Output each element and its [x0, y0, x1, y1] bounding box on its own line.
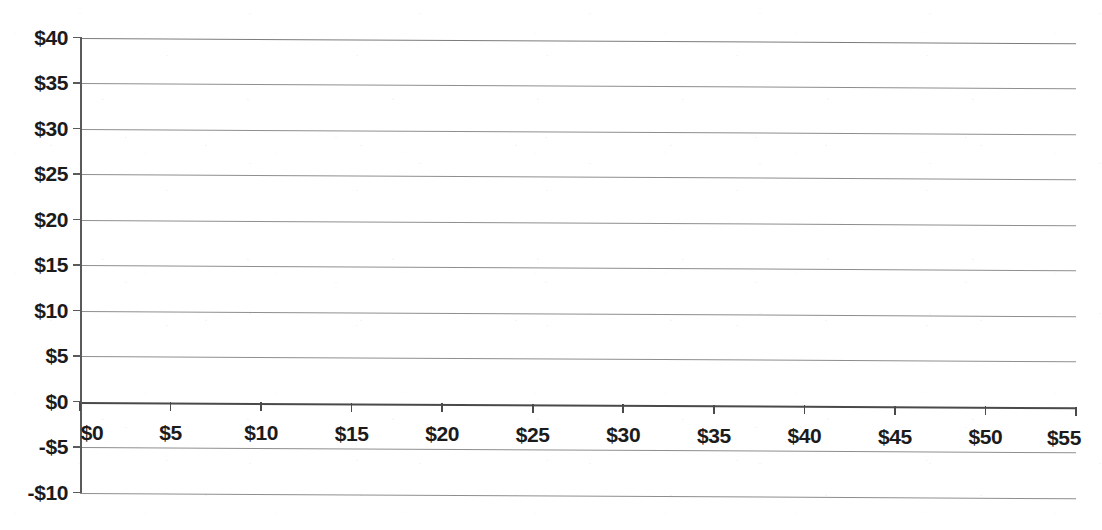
x-axis-tick [985, 406, 987, 415]
x-axis-tick [170, 402, 172, 411]
x-axis-tick-label: $25 [516, 424, 550, 445]
gridline [80, 356, 1076, 362]
y-axis-tick-label: $25 [4, 163, 68, 184]
gridline [80, 129, 1076, 135]
y-axis-tick [73, 37, 81, 39]
x-axis-tick-label: $15 [335, 423, 369, 444]
x-axis-tick [713, 405, 715, 414]
x-axis-tick-label: $55 [1047, 427, 1081, 448]
x-axis-tick [1075, 407, 1077, 416]
x-axis-tick [622, 404, 624, 413]
x-axis-tick-label: $35 [697, 425, 731, 446]
y-axis-tick [73, 219, 81, 221]
x-axis-tick-label: $45 [878, 426, 912, 447]
y-axis-tick-label: $0 [4, 391, 68, 412]
y-axis-tick-label: $30 [4, 118, 68, 139]
gridline [80, 493, 1076, 499]
x-axis-tick [351, 403, 353, 412]
gridline [80, 447, 1076, 453]
x-axis-tick-label: $40 [787, 425, 821, 446]
gridline [80, 174, 1076, 180]
y-axis-tick-label: $35 [4, 72, 68, 93]
gridline [80, 38, 1076, 44]
y-axis-tick [73, 492, 81, 494]
gridline [80, 83, 1076, 89]
y-axis-tick [73, 355, 81, 357]
gridline [80, 220, 1076, 226]
x-axis-tick [79, 402, 81, 411]
y-axis-tick-label: $10 [4, 300, 68, 321]
x-axis-tick [260, 402, 262, 411]
x-axis-tick [532, 404, 534, 413]
y-axis-tick-label: -$5 [4, 436, 68, 457]
x-axis-tick-label: $10 [244, 422, 278, 443]
x-axis-tick [894, 406, 896, 415]
y-axis-tick [73, 446, 81, 448]
y-axis-tick [73, 264, 81, 266]
x-axis-tick [804, 405, 806, 414]
chart-figure: $40$35$30$25$20$15$10$5$0-$5-$10 $0$5$10… [0, 0, 1102, 530]
x-axis-tick-label: $30 [606, 424, 640, 445]
gridline [80, 311, 1076, 317]
y-axis-tick-label: -$10 [4, 482, 68, 503]
y-axis-tick [73, 310, 81, 312]
x-axis-tick [441, 403, 443, 412]
gridline [80, 265, 1076, 271]
y-axis-tick-label: $40 [4, 27, 68, 48]
y-axis-tick-label: $5 [4, 345, 68, 366]
y-axis-tick-label: $20 [4, 209, 68, 230]
y-axis-tick [73, 82, 81, 84]
y-axis-tick [73, 128, 81, 130]
zero-axis-line [80, 402, 1076, 409]
x-axis-tick-label: $5 [159, 422, 182, 443]
x-axis-tick-label: $20 [425, 423, 459, 444]
y-axis-tick [73, 173, 81, 175]
x-axis-tick-label: $0 [81, 422, 104, 443]
x-axis-tick-label: $50 [969, 426, 1003, 447]
y-axis-tick-label: $15 [4, 254, 68, 275]
